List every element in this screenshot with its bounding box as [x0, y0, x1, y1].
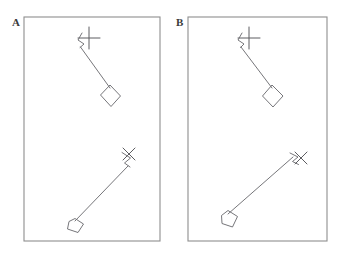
panel-b-label: B	[176, 16, 184, 28]
panel-a-label: A	[12, 16, 20, 28]
figure-canvas: A B	[0, 0, 344, 255]
panel-a: A	[12, 16, 160, 241]
figure-container: A B	[0, 0, 344, 255]
panel-b-frame	[188, 17, 327, 241]
panel-a-frame	[24, 17, 160, 241]
panel-b: B	[176, 16, 327, 241]
